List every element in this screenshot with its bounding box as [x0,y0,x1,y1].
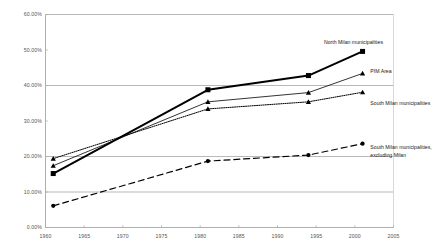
series-markers-group [51,49,366,208]
data-point-marker [205,87,210,92]
series-label: PIM Area [370,68,391,75]
data-point-marker [306,73,311,78]
y-axis-tick-label: 20.00% [24,153,42,159]
y-axis-tick-label: 30.00% [24,118,42,124]
series-line-0 [53,51,362,173]
data-point-marker [306,153,310,157]
x-axis-tick-label: 1975 [142,233,182,239]
x-axis-tick-label: 1985 [219,233,259,239]
data-point-marker [51,171,56,176]
axis-lines-group [46,15,394,228]
series-label: North Milan municipalities [324,39,383,46]
y-axis-tick-label: 50.00% [24,47,42,53]
y-axis-tick-label: 0.00% [27,224,42,230]
data-point-marker [51,163,56,168]
data-point-marker [360,142,364,146]
series-line-3 [53,144,362,206]
x-axis-tick-label: 1990 [258,233,298,239]
series-label: South Milan municipalities [370,100,430,107]
y-axis-tick-label: 60.00% [24,11,42,17]
x-axis-tick-label: 2005 [374,233,414,239]
series-label: South Milan municipalities, [370,144,431,151]
x-axis-tick-label: 1970 [103,233,143,239]
y-axis-tick-label: 40.00% [24,82,42,88]
series-lines-group [53,51,362,205]
series-label: excluding Milan [370,152,406,159]
data-point-marker [360,49,365,54]
x-axis-tick-label: 1965 [64,233,104,239]
data-point-marker [360,90,365,95]
x-axis-tick-label: 1980 [180,233,220,239]
data-point-marker [51,204,55,208]
x-axis-tick-label: 2000 [335,233,375,239]
x-axis-tick-label: 1960 [26,233,66,239]
data-point-marker [206,159,210,163]
x-axis-tick-label: 1995 [296,233,336,239]
y-axis-tick-label: 10.00% [24,189,42,195]
data-point-marker [360,71,365,76]
